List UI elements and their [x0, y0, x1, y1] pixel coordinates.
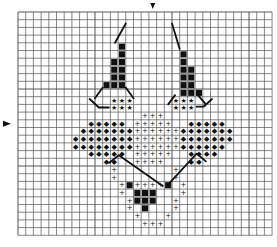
solid-stitch-cell [142, 190, 148, 196]
star-stitch-cell: ★ [188, 104, 194, 112]
solid-stitch-cell [134, 198, 140, 204]
star-stitch-cell: ★ [119, 104, 125, 112]
solid-stitch-cell [119, 59, 125, 65]
solid-stitch-cell [134, 190, 140, 196]
cross-stitch-cell: + [111, 174, 117, 182]
solid-stitch-cell [181, 51, 187, 57]
solid-stitch-cell [119, 44, 125, 50]
solid-stitch-cell [111, 67, 117, 73]
cross-stitch-cell: + [150, 220, 156, 228]
center-arrow-top-icon [150, 3, 155, 9]
solid-stitch-cell [181, 59, 187, 65]
solid-stitch-cell [150, 190, 156, 196]
diamond-stitch-cell: ◆ [96, 150, 102, 158]
cross-stitch-cell: + [150, 181, 156, 189]
cross-stitch-cell: + [165, 212, 171, 220]
solid-stitch-cell [181, 67, 187, 73]
solid-stitch-cell [111, 82, 117, 88]
cross-stitch-cell: + [158, 158, 164, 166]
diamond-stitch-cell: ◆ [204, 150, 210, 158]
solid-stitch-cell [188, 90, 194, 96]
cross-stitch-cell: + [158, 220, 164, 228]
cross-stitch-cell: + [173, 204, 179, 212]
star-stitch-cell: ★ [180, 104, 186, 112]
solid-stitch-cell [111, 74, 117, 80]
cross-stitch-pattern-chart: ◆◆◆◆◆◆◆◆◆◆◆◆◆◆◆◆◆◆◆◆◆◆◆◆◆◆◆◆◆◆◆◆◆◆◆◆◆◆◆◆… [0, 0, 277, 247]
solid-stitch-cell [188, 82, 194, 88]
cross-stitch-cell: + [181, 189, 187, 197]
cross-stitch-cell: + [127, 143, 133, 151]
cross-stitch-cell: + [134, 181, 140, 189]
solid-stitch-cell [142, 198, 148, 204]
star-stitch-cell: ★ [111, 104, 117, 112]
solid-stitch-cell [119, 67, 125, 73]
diamond-stitch-cell: ◆ [181, 143, 187, 151]
solid-stitch-cell [111, 59, 117, 65]
solid-stitch-cell [127, 182, 133, 188]
center-arrow-left-icon [3, 121, 11, 127]
backstitch-line [90, 99, 109, 107]
cross-stitch-cell: + [134, 158, 140, 166]
diamond-stitch-cell: ◆ [219, 143, 225, 151]
star-stitch-cell: ★ [127, 104, 133, 112]
solid-stitch-cell [181, 90, 187, 96]
solid-stitch-cell [119, 74, 125, 80]
solid-stitch-cell [188, 67, 194, 73]
diamond-stitch-cell: ◆ [88, 150, 94, 158]
cross-stitch-cell: + [134, 212, 140, 220]
solid-stitch-cell [119, 82, 125, 88]
cross-stitch-cell: + [142, 220, 148, 228]
diamond-stitch-cell: ◆ [212, 150, 218, 158]
solid-stitch-cell [181, 74, 187, 80]
cross-stitch-cell: + [173, 143, 179, 151]
star-stitch-cell: ★ [173, 104, 179, 112]
cross-stitch-cell: + [119, 189, 125, 197]
cross-stitch-cell: + [165, 150, 171, 158]
diamond-stitch-cell: ◆ [196, 158, 202, 166]
diamond-stitch-cell: ◆ [81, 143, 87, 151]
solid-stitch-cell [150, 198, 156, 204]
solid-stitch-cell [181, 82, 187, 88]
cross-stitch-cell: + [127, 204, 133, 212]
diamond-stitch-cell: ◆ [227, 135, 233, 143]
backstitch-line [115, 24, 126, 43]
cross-stitch-cell: + [150, 158, 156, 166]
solid-stitch-cell [188, 74, 194, 80]
solid-stitch-cell [119, 51, 125, 57]
diamond-stitch-cell: ◆ [73, 143, 79, 151]
cross-stitch-cell: + [142, 158, 148, 166]
solid-stitch-cell [142, 205, 148, 211]
cross-stitch-cell: + [142, 181, 148, 189]
solid-stitch-cell [104, 82, 110, 88]
